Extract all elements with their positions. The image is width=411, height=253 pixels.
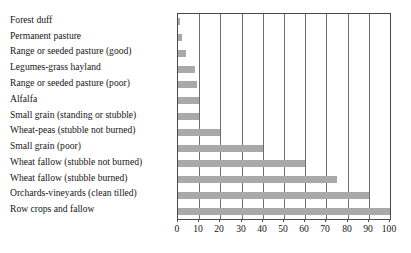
x-axis-tick bbox=[304, 219, 305, 222]
x-axis: 0102030405060708090100 bbox=[177, 219, 391, 241]
category-label: Range or seeded pasture (poor) bbox=[10, 78, 176, 88]
x-axis-tick-label: 90 bbox=[363, 223, 373, 234]
x-axis-tick bbox=[283, 219, 284, 222]
category-label: Wheat fallow (stubble not burned) bbox=[10, 157, 176, 167]
bar bbox=[178, 81, 197, 88]
x-axis-tick-label: 30 bbox=[236, 223, 246, 234]
x-axis-tick-label: 0 bbox=[175, 223, 180, 234]
bar bbox=[178, 192, 369, 199]
category-label: Wheat fallow (stubble burned) bbox=[10, 173, 176, 183]
x-axis-tick bbox=[241, 219, 242, 222]
category-label: Row crops and fallow bbox=[10, 204, 176, 214]
x-axis-tick-label: 50 bbox=[278, 223, 288, 234]
bar bbox=[178, 113, 199, 120]
category-label: Orchards-vineyards (clean tilled) bbox=[10, 188, 176, 198]
bar bbox=[178, 145, 263, 152]
x-axis-tick-label: 20 bbox=[214, 223, 224, 234]
bar bbox=[178, 34, 182, 41]
bar-chart-figure: Forest duffPermanent pastureRange or see… bbox=[0, 0, 411, 253]
x-axis-tick bbox=[325, 219, 326, 222]
x-axis-tick bbox=[219, 219, 220, 222]
x-axis-tick bbox=[368, 219, 369, 222]
x-axis-tick bbox=[262, 219, 263, 222]
bar bbox=[178, 18, 180, 25]
x-axis-tick bbox=[198, 219, 199, 222]
bar bbox=[178, 208, 390, 215]
bar bbox=[178, 66, 195, 73]
x-axis-tick-label: 60 bbox=[299, 223, 309, 234]
x-axis-tick bbox=[389, 219, 390, 222]
x-axis-tick-label: 10 bbox=[193, 223, 203, 234]
bar bbox=[178, 129, 220, 136]
category-label: Small grain (poor) bbox=[10, 141, 176, 151]
x-axis-tick-label: 40 bbox=[257, 223, 267, 234]
bar bbox=[178, 176, 337, 183]
category-label: Permanent pasture bbox=[10, 31, 176, 41]
bar bbox=[178, 97, 199, 104]
category-label-column: Forest duffPermanent pastureRange or see… bbox=[0, 0, 176, 253]
bar bbox=[178, 50, 186, 57]
bar-series bbox=[178, 14, 390, 219]
category-label: Legumes-grass hayland bbox=[10, 62, 176, 72]
x-axis-tick-label: 100 bbox=[382, 223, 396, 234]
category-label: Wheat-peas (stubble not burned) bbox=[10, 125, 176, 135]
category-label: Alfalfa bbox=[10, 94, 176, 104]
x-axis-tick-label: 70 bbox=[320, 223, 330, 234]
x-axis-tick bbox=[177, 219, 178, 222]
x-axis-tick-label: 80 bbox=[342, 223, 352, 234]
plot-area bbox=[177, 13, 391, 220]
x-axis-tick bbox=[347, 219, 348, 222]
category-label: Forest duff bbox=[10, 15, 176, 25]
bar bbox=[178, 160, 305, 167]
category-label: Small grain (standing or stubble) bbox=[10, 110, 176, 120]
category-label: Range or seeded pasture (good) bbox=[10, 46, 176, 56]
